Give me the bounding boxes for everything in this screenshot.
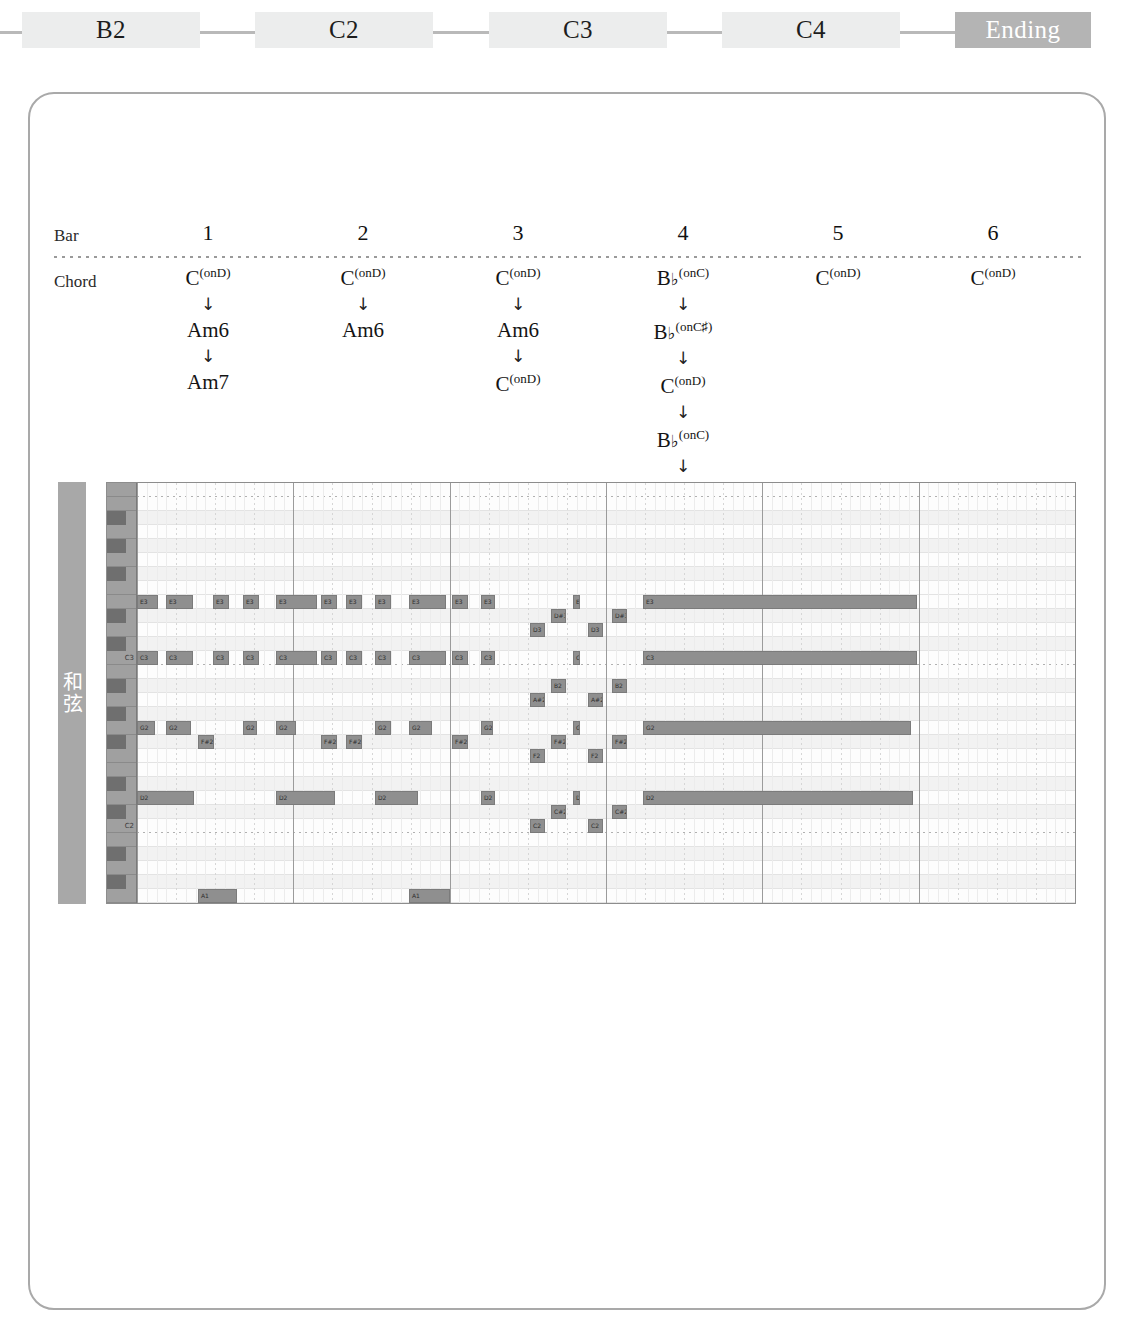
piano-roll-note[interactable]: A1: [198, 889, 237, 903]
piano-roll-note[interactable]: C3: [321, 651, 337, 665]
piano-white-key[interactable]: [107, 861, 137, 875]
piano-roll-note[interactable]: E3: [137, 595, 158, 609]
piano-roll-note[interactable]: F#2: [321, 735, 337, 749]
section-tab-c4[interactable]: C4: [722, 12, 900, 48]
piano-roll-note[interactable]: C3: [213, 651, 229, 665]
piano-white-key[interactable]: [107, 763, 137, 777]
piano-black-key[interactable]: [107, 805, 126, 819]
piano-roll-note[interactable]: D2: [137, 791, 194, 805]
piano-roll-note[interactable]: E3: [409, 595, 446, 609]
piano-roll-note[interactable]: D3: [588, 623, 603, 637]
piano-roll-note[interactable]: C3: [137, 651, 158, 665]
piano-black-key[interactable]: [107, 735, 126, 749]
piano-white-key[interactable]: [107, 497, 137, 511]
piano-white-key[interactable]: [107, 889, 137, 903]
piano-black-key[interactable]: [107, 707, 126, 721]
section-tab-b2[interactable]: B2: [22, 12, 200, 48]
piano-roll-note[interactable]: D2: [481, 791, 495, 805]
piano-black-key[interactable]: [107, 875, 126, 889]
piano-white-key[interactable]: [107, 581, 137, 595]
piano-white-key[interactable]: [107, 595, 137, 609]
piano-roll-note[interactable]: C3: [243, 651, 259, 665]
piano-keyboard[interactable]: C3C2: [107, 483, 137, 903]
piano-roll-note[interactable]: E3: [276, 595, 317, 609]
piano-black-key[interactable]: [107, 511, 126, 525]
piano-roll-note[interactable]: E3: [573, 595, 580, 609]
piano-roll-note[interactable]: B2: [612, 679, 627, 693]
piano-roll-note[interactable]: C3: [166, 651, 193, 665]
piano-roll-note[interactable]: C3: [375, 651, 391, 665]
piano-roll-note[interactable]: E3: [481, 595, 495, 609]
section-tab-c2[interactable]: C2: [255, 12, 433, 48]
piano-roll-note[interactable]: E3: [243, 595, 259, 609]
piano-roll-note[interactable]: A1: [409, 889, 450, 903]
piano-roll-note[interactable]: F2: [530, 749, 545, 763]
piano-roll-note[interactable]: D3: [530, 623, 545, 637]
piano-roll-note[interactable]: C3: [643, 651, 917, 665]
piano-roll-note[interactable]: E3: [166, 595, 193, 609]
piano-black-key[interactable]: [107, 637, 126, 651]
piano-roll-note[interactable]: C3: [346, 651, 362, 665]
piano-roll-note[interactable]: E3: [213, 595, 229, 609]
piano-roll-note[interactable]: C2: [588, 819, 603, 833]
piano-roll-note[interactable]: C3: [452, 651, 468, 665]
piano-roll-note[interactable]: D2: [573, 791, 580, 805]
piano-roll-note[interactable]: F#2: [346, 735, 362, 749]
piano-roll-note[interactable]: G2: [643, 721, 911, 735]
piano-roll-note[interactable]: C#2: [612, 805, 627, 819]
piano-white-key[interactable]: [107, 553, 137, 567]
piano-black-key[interactable]: [107, 539, 126, 553]
piano-roll-note[interactable]: G2: [243, 721, 257, 735]
piano-roll-note[interactable]: G2: [166, 721, 191, 735]
piano-roll-note[interactable]: C3: [276, 651, 317, 665]
section-tab-ending[interactable]: Ending: [955, 12, 1091, 48]
piano-roll-note[interactable]: G2: [276, 721, 296, 735]
piano-white-key[interactable]: [107, 791, 137, 805]
piano-roll-note[interactable]: D#3: [551, 609, 566, 623]
piano-white-key[interactable]: [107, 749, 137, 763]
piano-white-key[interactable]: [107, 693, 137, 707]
piano-roll-note[interactable]: D2: [276, 791, 335, 805]
piano-roll-note[interactable]: B2: [551, 679, 566, 693]
piano-roll-note[interactable]: E3: [452, 595, 468, 609]
piano-black-key[interactable]: [107, 567, 126, 581]
piano-roll-note[interactable]: F#2: [452, 735, 468, 749]
piano-roll-note[interactable]: F#2: [612, 735, 627, 749]
piano-roll-note[interactable]: C#2: [551, 805, 566, 819]
piano-roll-note[interactable]: G2: [481, 721, 493, 735]
piano-roll-note[interactable]: E3: [375, 595, 391, 609]
piano-roll-note[interactable]: C2: [530, 819, 545, 833]
piano-roll-note[interactable]: F2: [588, 749, 603, 763]
grid-beat-line: [567, 483, 568, 903]
piano-roll-note[interactable]: D2: [643, 791, 913, 805]
piano-white-key[interactable]: [107, 623, 137, 637]
piano-white-key[interactable]: [107, 483, 137, 497]
piano-black-key[interactable]: [107, 847, 126, 861]
piano-roll-note[interactable]: G2: [409, 721, 432, 735]
piano-roll-note[interactable]: A#2: [588, 693, 603, 707]
piano-black-key[interactable]: [107, 777, 126, 791]
piano-white-key[interactable]: [107, 833, 137, 847]
piano-roll-note[interactable]: A#2: [530, 693, 545, 707]
piano-roll-note[interactable]: E3: [346, 595, 362, 609]
piano-white-key[interactable]: [107, 721, 137, 735]
piano-roll-note[interactable]: C3: [481, 651, 495, 665]
section-tab-c3[interactable]: C3: [489, 12, 667, 48]
piano-black-key[interactable]: [107, 609, 126, 623]
piano-roll-body[interactable]: C3C2 E3C3G2D2E3C3G2F#2A1E3C3E3C3G2E3C3G2…: [106, 482, 1076, 904]
piano-white-key[interactable]: [107, 525, 137, 539]
piano-roll-note[interactable]: D#3: [612, 609, 627, 623]
piano-roll-grid[interactable]: E3C3G2D2E3C3G2F#2A1E3C3E3C3G2E3C3G2D2E3C…: [137, 483, 1075, 903]
piano-roll-note[interactable]: E3: [643, 595, 917, 609]
piano-roll-note[interactable]: G2: [375, 721, 391, 735]
piano-black-key[interactable]: [107, 679, 126, 693]
piano-roll-note[interactable]: G2: [573, 721, 580, 735]
piano-roll-note[interactable]: D2: [375, 791, 418, 805]
piano-roll-note[interactable]: F#2: [198, 735, 214, 749]
piano-roll-note[interactable]: E3: [321, 595, 337, 609]
piano-roll-note[interactable]: C3: [409, 651, 446, 665]
piano-white-key[interactable]: [107, 665, 137, 679]
piano-roll-note[interactable]: G2: [137, 721, 155, 735]
piano-roll-note[interactable]: C3: [573, 651, 580, 665]
piano-roll-note[interactable]: F#2: [551, 735, 566, 749]
